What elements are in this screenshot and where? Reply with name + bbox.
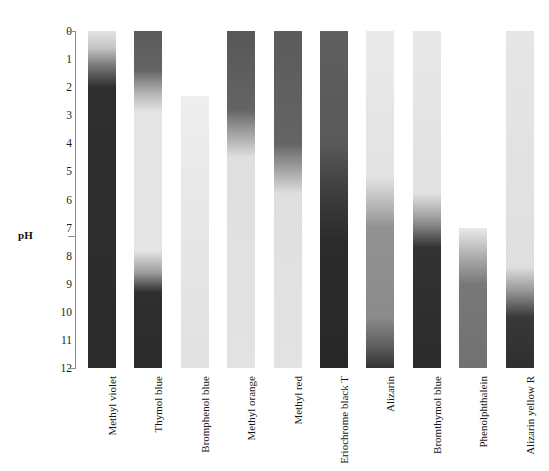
indicator-label: Bromthymol blue — [432, 376, 443, 471]
indicator-strip — [366, 31, 394, 368]
indicator-strip-area: Methyl violetThymol blueBromphenol blueM… — [0, 0, 549, 471]
indicator-strip — [506, 31, 534, 368]
indicator-label: Bromphenol blue — [200, 376, 211, 471]
indicator-strip — [413, 31, 441, 368]
indicator-strip — [320, 31, 348, 368]
indicator-strip — [459, 228, 487, 368]
indicator-label: Phenolphthalein — [478, 376, 489, 471]
indicator-label: Methyl orange — [246, 376, 257, 471]
indicator-strip — [227, 31, 255, 368]
indicator-label: Eriochrome black T — [339, 376, 350, 471]
indicator-strip — [88, 31, 116, 368]
indicator-strip — [181, 96, 209, 368]
indicator-strip — [134, 31, 162, 368]
indicator-label: Alizarin yellow R — [525, 376, 536, 471]
ph-indicator-chart: pH 0123456789101112 Methyl violetThymol … — [0, 0, 549, 471]
indicator-label: Methyl violet — [107, 376, 118, 471]
indicator-strip — [274, 31, 302, 368]
indicator-label: Methyl red — [293, 376, 304, 471]
indicator-label: Alizarin — [385, 376, 396, 471]
indicator-label: Thymol blue — [153, 376, 164, 471]
